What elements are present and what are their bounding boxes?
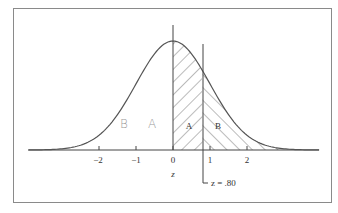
tick-label-0: 0 — [171, 155, 176, 165]
region-b-label: B — [215, 121, 221, 131]
handwritten-label-b: B — [120, 117, 128, 131]
region-a-label: A — [186, 121, 193, 131]
handwritten-label-a: A — [148, 117, 156, 131]
z-marker-label: z = .80 — [211, 178, 236, 188]
tick-label-2: 2 — [245, 155, 250, 165]
axis-label-z: z — [170, 169, 175, 179]
tick-label-neg1: −1 — [131, 155, 141, 165]
region-b-shading — [203, 71, 318, 150]
tick-label-1: 1 — [208, 155, 213, 165]
region-a-shading — [173, 41, 203, 150]
normal-distribution-figure: −2 −1 0 1 2 z z = .80 A B B A — [0, 0, 338, 213]
tick-label-neg2: −2 — [93, 155, 103, 165]
